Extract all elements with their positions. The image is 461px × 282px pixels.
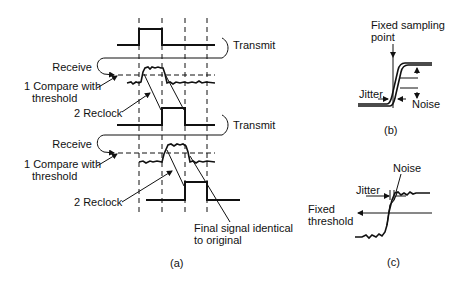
- label-fixed-sampling: Fixed sampling: [371, 19, 445, 31]
- reclock-2-waveform: [146, 182, 240, 200]
- caption-c: (c): [387, 256, 400, 268]
- caption-a: (a): [170, 257, 183, 269]
- label-jitter-b: Jitter: [359, 88, 383, 100]
- label-transmit-2: Transmit: [233, 119, 275, 131]
- label-threshold-1: threshold: [32, 92, 77, 104]
- label-fixed-threshold: threshold: [308, 215, 353, 227]
- label-compare-1: 1 Compare with: [24, 80, 101, 92]
- label-noise-b: Noise: [412, 98, 440, 110]
- label-threshold-2: threshold: [32, 170, 77, 182]
- label-final-signal-2: to original: [194, 234, 242, 246]
- caption-b: (b): [384, 124, 397, 136]
- label-final-signal: Final signal identical: [194, 222, 293, 234]
- transmit-1-waveform: [117, 29, 215, 45]
- panel-a-waveforms: [97, 18, 240, 222]
- label-noise-c: Noise: [393, 162, 421, 174]
- label-receive-1: Receive: [40, 61, 92, 73]
- label-transmit-1: Transmit: [233, 39, 275, 51]
- label-reclock-2: 2 Reclock: [74, 196, 122, 208]
- label-receive-2: Receive: [40, 138, 92, 150]
- label-reclock-1: 2 Reclock: [74, 107, 122, 119]
- label-point: point: [371, 31, 395, 43]
- label-fixed: Fixed: [308, 203, 335, 215]
- reclock-1-waveform: [117, 108, 215, 125]
- label-jitter-c: Jitter: [356, 184, 380, 196]
- label-compare-2: 1 Compare with: [24, 158, 101, 170]
